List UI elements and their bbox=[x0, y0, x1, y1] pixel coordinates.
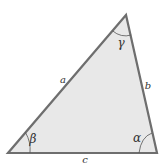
angle-label-beta: β bbox=[30, 133, 37, 145]
triangle-figure bbox=[0, 0, 167, 164]
angle-label-alpha: α bbox=[133, 132, 141, 144]
side-label-c: c bbox=[82, 155, 88, 164]
side-label-b: b bbox=[145, 81, 151, 91]
angle-label-gamma: γ bbox=[117, 37, 124, 49]
side-label-a: a bbox=[60, 75, 66, 85]
triangle-diagram: a b c γ β α bbox=[0, 0, 167, 164]
